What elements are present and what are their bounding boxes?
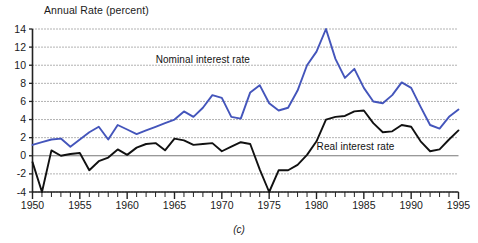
x-axis-tick-label: 1950 — [11, 200, 55, 211]
x-axis-tick-label: 1965 — [153, 200, 197, 211]
x-axis-tick-label: 1960 — [105, 200, 149, 211]
y-axis-tick-label: -2 — [2, 168, 26, 178]
x-axis-tick-label: 1955 — [58, 200, 102, 211]
y-axis-tick-label: -4 — [2, 187, 26, 197]
x-axis-tick-label: 1985 — [342, 200, 386, 211]
panel-caption: (c) — [0, 224, 478, 235]
y-axis-tick-label: 8 — [2, 78, 26, 88]
series-label-nominal: Nominal interest rate — [156, 54, 250, 65]
y-axis-tick-label: 10 — [2, 60, 26, 70]
x-axis-tick-label: 1970 — [200, 200, 244, 211]
series-label-real: Real interest rate — [317, 141, 395, 152]
x-axis-tick-label: 1980 — [295, 200, 339, 211]
y-axis-tick-label: 14 — [2, 24, 26, 34]
x-axis-tick-label: 1995 — [437, 200, 478, 211]
y-axis-tick-label: 4 — [2, 114, 26, 124]
y-axis-tick-label: 2 — [2, 132, 26, 142]
y-axis-title: Annual Rate (percent) — [44, 4, 149, 16]
y-axis-tick-label: 12 — [2, 42, 26, 52]
y-axis-tick-label: 6 — [2, 96, 26, 106]
x-axis-tick-label: 1990 — [389, 200, 433, 211]
interest-rate-chart-figure: Annual Rate (percent) (c) 14121086420-2-… — [0, 0, 478, 243]
x-axis-tick-label: 1975 — [247, 200, 291, 211]
y-axis-tick-label: 0 — [2, 150, 26, 160]
